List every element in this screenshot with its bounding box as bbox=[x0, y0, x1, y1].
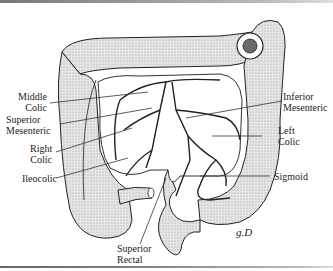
label-left-colic: Left Colic bbox=[278, 125, 300, 147]
artist-signature: g.D bbox=[236, 226, 252, 238]
label-superior-mesenteric: Superior Mesenteric bbox=[6, 114, 50, 136]
label-superior-rectal: Superior Rectal bbox=[117, 243, 151, 265]
transverse-colon bbox=[62, 32, 256, 74]
bottom-rule bbox=[0, 266, 333, 268]
label-middle-colic: Middle Colic bbox=[18, 91, 47, 113]
label-inferior-mesenteric: Inferior Mesenteric bbox=[283, 91, 327, 113]
sigmoid-rectum bbox=[158, 170, 200, 255]
label-ileocolic: Ileocolic bbox=[22, 173, 57, 184]
label-right-colic: Right Colic bbox=[30, 143, 52, 165]
label-sigmoid: Sigmoid bbox=[274, 171, 308, 182]
ileum bbox=[118, 187, 152, 204]
